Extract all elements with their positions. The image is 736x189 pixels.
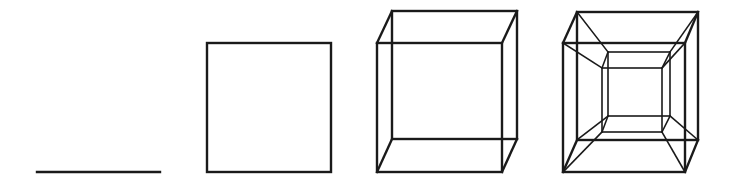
tesseract-figure (563, 12, 698, 172)
dimension-diagram (0, 0, 736, 189)
square-figure (207, 43, 331, 172)
cube-figure (377, 11, 517, 172)
